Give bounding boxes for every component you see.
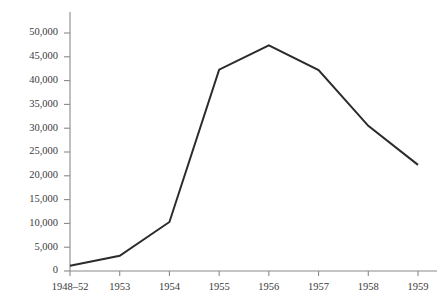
y-axis-tick-label: 50,000 <box>29 26 58 37</box>
line-chart: 05,00010,00015,00020,00025,00030,00035,0… <box>0 0 443 306</box>
x-axis-tick-label: 1958 <box>358 281 379 292</box>
y-axis-tick-label: 20,000 <box>29 169 58 180</box>
x-axis-tick-label: 1956 <box>258 281 279 292</box>
chart-canvas: 05,00010,00015,00020,00025,00030,00035,0… <box>0 0 443 306</box>
y-axis-tick-label: 0 <box>53 264 58 275</box>
x-axis-tick-label: 1955 <box>209 281 230 292</box>
y-axis-tick-marks <box>64 33 70 271</box>
x-axis-tick-label: 1959 <box>408 281 429 292</box>
x-axis-tick-label: 1957 <box>308 281 329 292</box>
y-axis-tick-label: 45,000 <box>29 50 58 61</box>
y-axis-tick-label: 30,000 <box>29 122 58 133</box>
y-axis-tick-labels: 05,00010,00015,00020,00025,00030,00035,0… <box>29 26 58 275</box>
x-axis-tick-marks <box>70 271 418 276</box>
x-axis-tick-label: 1948–52 <box>52 281 89 292</box>
y-axis-tick-label: 25,000 <box>29 145 58 156</box>
y-axis-tick-label: 5,000 <box>34 241 58 252</box>
plot-area: 05,00010,00015,00020,00025,00030,00035,0… <box>29 12 437 292</box>
data-series-line <box>70 45 418 265</box>
x-axis-tick-label: 1953 <box>109 281 130 292</box>
y-axis-tick-label: 10,000 <box>29 217 58 228</box>
y-axis-tick-label: 40,000 <box>29 74 58 85</box>
y-axis-tick-label: 15,000 <box>29 193 58 204</box>
x-axis-tick-labels: 1948–521953195419551956195719581959 <box>52 281 429 292</box>
x-axis-tick-label: 1954 <box>159 281 181 292</box>
y-axis-tick-label: 35,000 <box>29 98 58 109</box>
